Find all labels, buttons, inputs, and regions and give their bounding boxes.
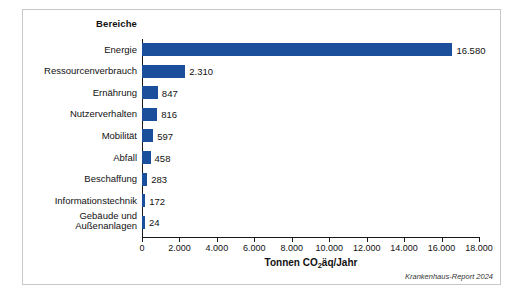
x-tick bbox=[179, 238, 180, 242]
bar bbox=[142, 216, 145, 229]
x-axis-title-text: Tonnen CO bbox=[265, 257, 318, 268]
bar-value-label: 172 bbox=[149, 196, 165, 207]
category-label: Mobilität bbox=[23, 131, 137, 142]
category-axis-header: Bereiche bbox=[23, 18, 137, 29]
bar bbox=[142, 108, 157, 121]
category-label: Ernährung bbox=[23, 88, 137, 99]
category-label: Informationstechnik bbox=[23, 196, 137, 207]
bar-value-label: 283 bbox=[151, 174, 167, 185]
x-tick bbox=[367, 238, 368, 242]
category-label: Energie bbox=[23, 45, 137, 56]
x-tick bbox=[217, 238, 218, 242]
x-tick bbox=[479, 238, 480, 242]
bar-value-label: 458 bbox=[155, 153, 171, 164]
bar-value-label: 597 bbox=[157, 131, 173, 142]
bar bbox=[142, 43, 452, 56]
x-axis-title: Tonnen CO2äq/Jahr bbox=[142, 257, 480, 268]
category-label: Ressourcenverbrauch bbox=[23, 66, 137, 77]
bar-value-label: 24 bbox=[149, 217, 160, 228]
bar-value-label: 847 bbox=[162, 88, 178, 99]
x-axis-title-text-2: äq/Jahr bbox=[322, 257, 358, 268]
bar bbox=[142, 194, 145, 207]
source-note: Krankenhaus-Report 2024 bbox=[405, 272, 493, 281]
bar bbox=[142, 86, 158, 99]
bar-value-label: 2.310 bbox=[189, 66, 213, 77]
bar-value-label: 816 bbox=[161, 109, 177, 120]
x-tick bbox=[442, 238, 443, 242]
bar-value-label: 16.580 bbox=[456, 45, 485, 56]
bar bbox=[142, 65, 185, 78]
x-tick-label: 18.000 bbox=[454, 243, 504, 253]
category-label: Abfall bbox=[23, 153, 137, 164]
category-label: Beschaffung bbox=[23, 174, 137, 185]
category-label-line2: Außenanlagen bbox=[75, 220, 137, 231]
x-tick bbox=[292, 238, 293, 242]
bar bbox=[142, 151, 151, 164]
x-tick bbox=[254, 238, 255, 242]
bar bbox=[142, 129, 153, 142]
x-axis-title-sub: 2 bbox=[318, 261, 322, 270]
x-tick bbox=[142, 238, 143, 242]
x-tick bbox=[404, 238, 405, 242]
x-axis-line bbox=[142, 237, 480, 238]
category-label: Gebäude undAußenanlagen bbox=[23, 211, 137, 232]
bar bbox=[142, 173, 147, 186]
x-tick bbox=[329, 238, 330, 242]
category-label: Nutzerverhalten bbox=[23, 109, 137, 120]
chart-card: Bereiche EnergieRessourcenverbrauchErnäh… bbox=[22, 9, 501, 285]
